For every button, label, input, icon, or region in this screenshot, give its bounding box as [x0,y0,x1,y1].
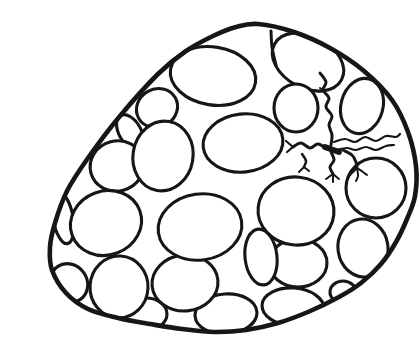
egg-sac-illustration [40,16,420,335]
egg-shape [346,158,406,218]
egg-shape [88,255,149,320]
egg-sac-drawing [40,16,420,335]
egg-shape [274,84,318,132]
